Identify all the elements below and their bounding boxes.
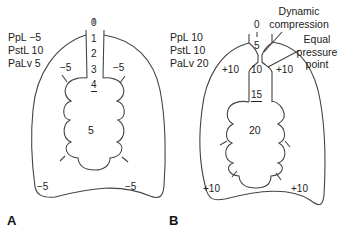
annotation-line: compression (264, 18, 334, 31)
annotation-line: Dynamic (264, 5, 334, 18)
equal-pressure-point-annotation: Equal pressure point (294, 33, 340, 71)
pleural-label-b-1: +10 (222, 64, 239, 76)
annotation-line: Equal (294, 33, 340, 46)
annotation-line: point (294, 58, 340, 71)
pleural-label-b-3: +10 (203, 183, 220, 195)
panel-a-palv: PaLv 5 (8, 57, 41, 69)
airway-a-value-0: 0 (91, 17, 97, 29)
panel-label-a: A (7, 213, 16, 228)
airway-b-value-1: 5 (254, 40, 260, 52)
panel-b-pstl: PstL 10 (170, 44, 205, 56)
pleural-label-a-2: −5 (113, 62, 124, 74)
airway-a-value-3: 3 (91, 64, 97, 76)
airway-b-value-2: 10 (251, 64, 262, 76)
airway-b-value-0: 0 (254, 19, 260, 31)
panel-b-ppl: PpL 10 (170, 31, 203, 43)
airway-b-value-3: 15 (251, 89, 262, 102)
alveolar-pressure-b: 20 (249, 124, 261, 136)
pleural-label-a-4: −5 (125, 181, 136, 193)
pleural-label-a-1: −5 (60, 62, 71, 74)
dynamic-compression-annotation: Dynamic compression (264, 5, 334, 30)
pleural-label-b-2: +10 (276, 64, 293, 76)
alveoli-b (226, 101, 285, 188)
pleural-label-a-3: −5 (37, 181, 48, 193)
panel-label-b: B (169, 213, 178, 228)
pleural-label-b-4: +10 (291, 183, 308, 195)
chest-outline-a (32, 35, 166, 198)
airway-a-value-2: 2 (91, 48, 97, 60)
panel-b-palv: PaLv 20 (170, 57, 209, 69)
panel-a-pstl: PstL 10 (8, 44, 43, 56)
annotation-line: pressure (294, 46, 340, 59)
alveolar-pressure-a: 5 (88, 124, 94, 136)
panel-a-ppl: PpL −5 (8, 31, 41, 43)
airway-a-value-4: 4 (91, 79, 97, 92)
airway-a-value-1: 1 (91, 33, 97, 45)
